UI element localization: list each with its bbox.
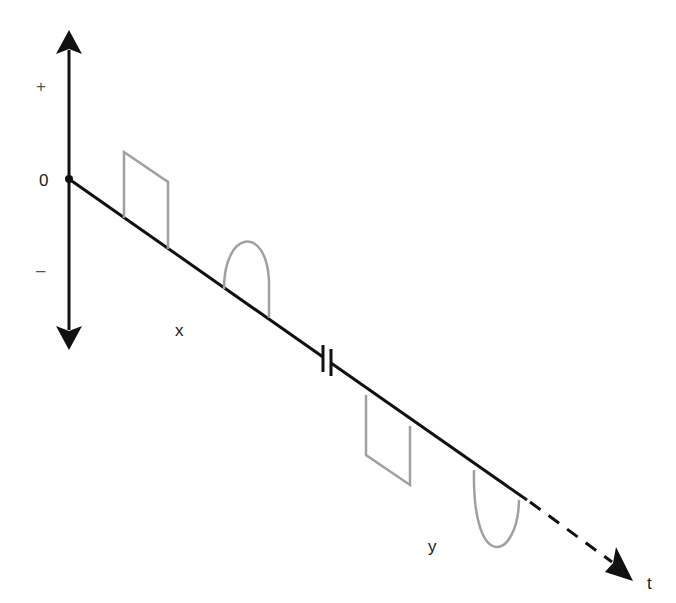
minus-label: – <box>36 262 45 279</box>
zero-label: 0 <box>39 172 48 189</box>
half-sine-pulse-positive <box>224 242 269 318</box>
t-axis-label: t <box>647 575 652 592</box>
time-axis <box>69 179 633 581</box>
half-sine-pulse-negative <box>474 470 519 547</box>
dashed-continuation <box>530 502 612 562</box>
x-region-label: x <box>175 322 184 339</box>
square-pulse-negative <box>366 395 410 485</box>
amplitude-axis <box>56 30 82 350</box>
plus-label: + <box>36 78 46 95</box>
signal-diagram <box>0 0 676 603</box>
y-region-label: y <box>428 538 437 555</box>
t-arrow-icon <box>605 547 633 581</box>
